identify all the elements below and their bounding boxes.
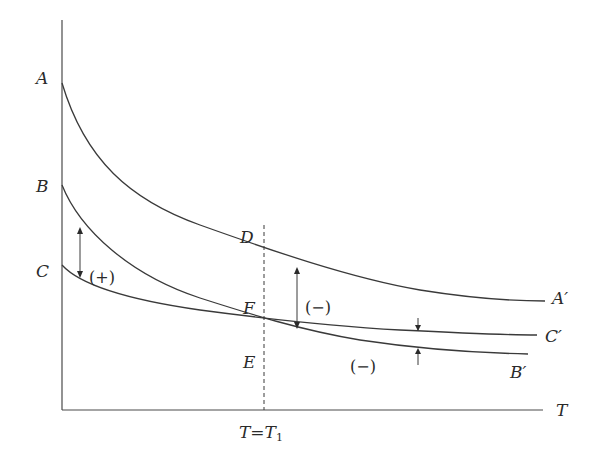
t1-marker-text: T=T (239, 422, 278, 442)
label-f: F (242, 298, 256, 318)
arrowhead-up-icon (415, 348, 421, 354)
label-b-prime: B′ (509, 362, 526, 382)
arrowhead-up-icon (77, 227, 83, 234)
t1-marker-subscript: 1 (276, 431, 283, 444)
label-d: D (239, 227, 254, 247)
curve-c (62, 265, 537, 335)
x-axis-label: T (556, 400, 569, 420)
right-gap-sign: (−) (350, 357, 376, 376)
curve-b (62, 185, 528, 354)
label-c-prime: C′ (545, 326, 562, 346)
middle-gap-sign: (−) (305, 298, 331, 317)
arrowhead-down-icon (415, 325, 421, 331)
label-b: B (35, 176, 49, 196)
diagram-canvas: A B C A′ C′ B′ D F E (+) (−) (−) T T=T1 (0, 0, 595, 462)
arrowhead-up-icon (294, 267, 300, 274)
label-c: C (36, 261, 49, 281)
t1-marker-label: T=T1 (239, 422, 283, 444)
curve-a (62, 83, 545, 301)
arrowhead-down-icon (294, 322, 300, 329)
label-a: A (34, 68, 48, 88)
left-gap-sign: (+) (89, 268, 115, 287)
label-a-prime: A′ (550, 288, 568, 308)
label-e: E (242, 352, 256, 372)
